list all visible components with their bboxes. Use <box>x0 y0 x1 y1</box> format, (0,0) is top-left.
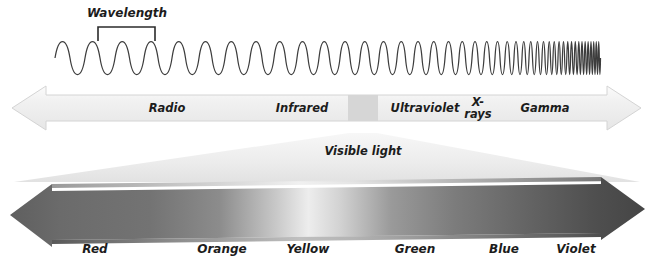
electromagnetic-wave <box>55 42 601 75</box>
band-label-radio: Radio <box>149 101 186 115</box>
visible-light-funnel: Visible light <box>14 133 640 182</box>
color-label-red: Red <box>82 242 108 256</box>
visible-light-label: Visible light <box>324 144 402 158</box>
band-label-ultraviolet: Ultraviolet <box>391 101 460 115</box>
visible-color-arrow: Red Orange Yellow Green Blue Violet <box>10 177 645 256</box>
color-label-orange: Orange <box>197 242 247 256</box>
color-label-blue: Blue <box>489 242 519 256</box>
color-label-violet: Violet <box>556 242 597 256</box>
wavelength-bracket <box>98 27 155 41</box>
color-label-yellow: Yellow <box>287 242 331 256</box>
electromagnetic-spectrum-diagram: Wavelength Radio Infrared Ultraviolet X-… <box>0 0 653 265</box>
wavelength-annotation: Wavelength <box>87 6 167 41</box>
color-label-green: Green <box>395 242 436 256</box>
wavelength-label: Wavelength <box>87 6 167 20</box>
band-label-infrared: Infrared <box>276 101 329 115</box>
spectrum-arrow: Radio Infrared Ultraviolet X- rays Gamma <box>12 86 641 130</box>
band-label-gamma: Gamma <box>521 101 570 115</box>
band-label-xrays-line2: rays <box>464 107 492 121</box>
visible-light-band <box>348 95 378 121</box>
